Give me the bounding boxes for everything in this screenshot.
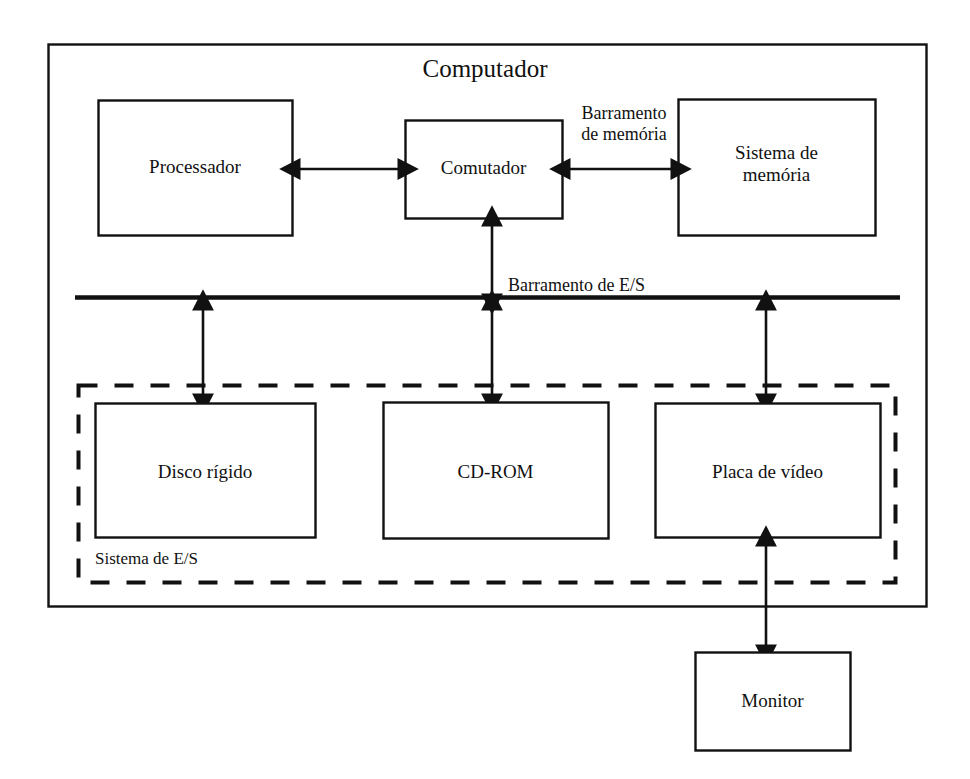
cdrom-label: CD-ROM	[383, 461, 608, 483]
memory-system-label: Sistema de memória	[678, 142, 875, 187]
diagram-page: Computador Processador Comutador Sistema…	[0, 0, 970, 779]
processor-label: Processador	[98, 156, 292, 178]
hard-disk-label: Disco rígido	[95, 461, 315, 483]
memory-bus-label-line2: de memória	[581, 124, 666, 144]
diagram-canvas	[0, 0, 970, 779]
io-bus-label: Barramento de E/S	[508, 275, 645, 296]
switch-label: Comutador	[405, 157, 562, 179]
memory-system-label-line1: Sistema de	[735, 142, 818, 163]
memory-bus-label: Barramento de memória	[565, 103, 683, 145]
diagram-title: Computador	[0, 54, 970, 84]
monitor-label: Monitor	[695, 690, 850, 712]
io-system-group-label: Sistema de E/S	[95, 549, 198, 569]
memory-bus-label-line1: Barramento	[582, 103, 667, 123]
video-card-label: Placa de vídeo	[655, 461, 880, 483]
memory-system-label-line2: memória	[743, 164, 811, 185]
